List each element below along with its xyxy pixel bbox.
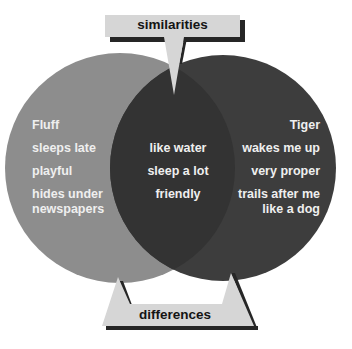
right-set-item: wakes me up (242, 141, 320, 156)
intersection-item: sleep a lot (128, 164, 228, 179)
left-set-item: playful (32, 164, 72, 179)
right-set-item: very proper (251, 164, 320, 179)
intersection-item: like water (128, 141, 228, 156)
right-set-title: Tiger (290, 118, 320, 133)
left-set-title: Fluff (32, 118, 59, 133)
left-set-item: newspapers (32, 202, 104, 217)
right-set-item: trails after me (238, 187, 320, 202)
similarities-label: similarities (105, 17, 240, 32)
left-set-item: hides under (32, 187, 103, 202)
right-set-item: like a dog (262, 202, 320, 217)
differences-label: differences (125, 307, 225, 322)
left-set-item: sleeps late (32, 141, 96, 156)
intersection-item: friendly (128, 187, 228, 202)
